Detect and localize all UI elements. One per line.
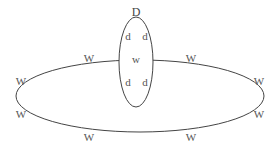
- inner-label: w: [132, 53, 140, 65]
- ellipse-diagram: D d d w d d W W W W W W W W: [0, 0, 278, 152]
- outer-label: W: [84, 131, 95, 143]
- inner-title-label: D: [132, 5, 141, 19]
- inner-label: d: [125, 30, 131, 42]
- outer-label: W: [16, 75, 27, 87]
- outer-label: W: [186, 52, 197, 64]
- outer-label: W: [254, 108, 265, 120]
- outer-label: W: [16, 108, 27, 120]
- outer-label: W: [84, 52, 95, 64]
- outer-label: W: [186, 131, 197, 143]
- inner-label: d: [142, 30, 148, 42]
- inner-label: d: [125, 76, 131, 88]
- outer-label: W: [254, 75, 265, 87]
- inner-label: d: [142, 76, 148, 88]
